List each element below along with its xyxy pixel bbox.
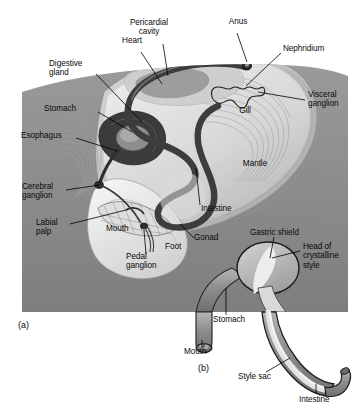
label-stomach-a: Stomach	[44, 104, 76, 113]
label-anus: Anus	[216, 17, 260, 26]
label-gastric-shield: Gastric shield	[250, 228, 299, 237]
label-esophagus: Esophagus	[21, 131, 62, 140]
label-head-of-crystalline-style: Head ofcrystallinestyle	[303, 242, 339, 270]
label-mouth-a: Mouth	[106, 224, 129, 233]
label-cerebral-ganglion: Cerebralganglion	[22, 182, 53, 201]
label-mouth-b: Mouth	[184, 347, 207, 356]
label-intestine-a: Intestine	[201, 204, 232, 213]
label-gonad: Gonad	[194, 233, 218, 242]
label-nephridium: Nephridium	[283, 44, 324, 53]
panel-a-tag: (a)	[18, 320, 29, 330]
label-pericardial-cavity: Pericardialcavity	[118, 18, 180, 37]
anus	[242, 62, 251, 70]
label-stomach-b: Stomach	[213, 315, 245, 324]
label-mantle: Mantle	[232, 159, 278, 168]
panel-b-figure	[196, 312, 350, 397]
figure-root: Pericardialcavity Anus Heart Nephridium …	[0, 0, 363, 418]
label-visceral-ganglion: Visceralganglion	[308, 90, 339, 109]
label-digestive-gland: Digestivegland	[49, 59, 82, 78]
label-heart: Heart	[112, 36, 152, 45]
label-style-sac: Style sac	[238, 372, 271, 381]
label-foot: Foot	[165, 242, 181, 251]
label-labial-palp: Labialpalp	[36, 218, 58, 237]
label-intestine-b: Intestine	[299, 395, 330, 404]
label-pedal-ganglion: Pedalganglion	[126, 252, 157, 271]
label-gill: Gill	[228, 106, 262, 115]
panel-b-tag: (b)	[198, 363, 209, 373]
